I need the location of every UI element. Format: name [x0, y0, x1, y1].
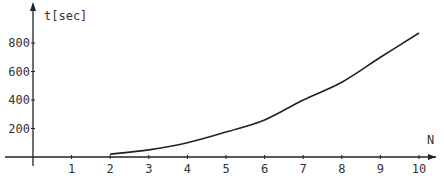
- x-tick-label: 4: [184, 162, 191, 176]
- line-chart: 12345678910200400600800 t[sec] N: [0, 0, 444, 180]
- x-tick-label: 8: [338, 162, 345, 176]
- x-tick-label: 2: [107, 162, 114, 176]
- y-axis-label: t[sec]: [44, 9, 87, 23]
- y-tick-label: 400: [8, 93, 30, 107]
- ticks: 12345678910200400600800: [8, 36, 426, 176]
- data-line: [110, 33, 419, 154]
- x-tick-label: 7: [300, 162, 307, 176]
- y-tick-label: 200: [8, 122, 30, 136]
- x-axis-arrow-icon: [428, 154, 436, 160]
- y-axis-arrow-icon: [30, 2, 36, 11]
- x-tick-label: 6: [261, 162, 268, 176]
- x-tick-label: 5: [222, 162, 229, 176]
- axes: [5, 2, 436, 166]
- y-tick-label: 800: [8, 36, 30, 50]
- x-tick-label: 9: [377, 162, 384, 176]
- x-tick-label: 1: [68, 162, 75, 176]
- x-axis-label: N: [427, 133, 434, 147]
- x-tick-label: 3: [145, 162, 152, 176]
- x-tick-label: 10: [412, 162, 426, 176]
- y-tick-label: 600: [8, 65, 30, 79]
